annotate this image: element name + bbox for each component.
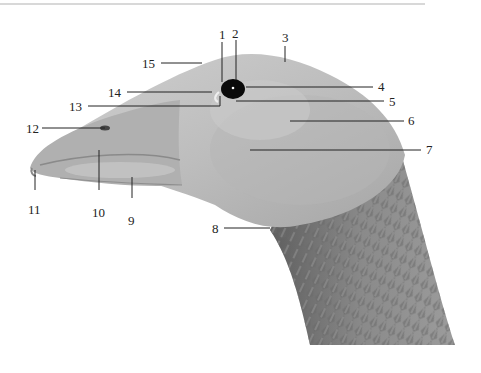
label-2: 2 xyxy=(232,27,239,40)
label-15: 15 xyxy=(142,57,155,70)
label-10: 10 xyxy=(92,206,105,219)
label-3: 3 xyxy=(282,31,289,44)
goose-head-illustration xyxy=(0,0,481,373)
label-6: 6 xyxy=(408,114,415,127)
label-1: 1 xyxy=(219,28,226,41)
label-5: 5 xyxy=(389,95,396,108)
label-13: 13 xyxy=(69,100,82,113)
label-7: 7 xyxy=(426,143,433,156)
label-8: 8 xyxy=(212,222,219,235)
label-4: 4 xyxy=(378,80,385,93)
label-12: 12 xyxy=(26,122,39,135)
label-14: 14 xyxy=(108,86,121,99)
label-11: 11 xyxy=(28,203,41,216)
label-9: 9 xyxy=(128,214,135,227)
